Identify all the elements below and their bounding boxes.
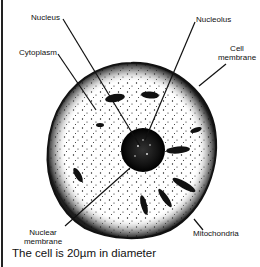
label-mitochondria: Mitochondria — [193, 229, 239, 238]
label-nucleolus: Nucleolus — [196, 15, 231, 24]
nucleus — [121, 128, 165, 172]
label-cell-membrane-line1: Cell — [217, 44, 257, 53]
label-nuclear-membrane-line1: Nuclear — [22, 228, 64, 237]
cell-membrane-leader — [199, 64, 226, 86]
label-nucleus: Nucleus — [31, 13, 60, 22]
label-cell-membrane-line2: membrane — [217, 53, 257, 62]
label-cell-membrane: Cell membrane — [217, 44, 257, 62]
diagram-caption: The cell is 20µm in diameter — [12, 247, 156, 259]
label-nuclear-membrane-line2: membrane — [22, 237, 64, 246]
cell-diagram — [0, 0, 260, 267]
label-nuclear-membrane: Nuclear membrane — [22, 228, 64, 246]
label-cytoplasm: Cytoplasm — [19, 48, 57, 57]
